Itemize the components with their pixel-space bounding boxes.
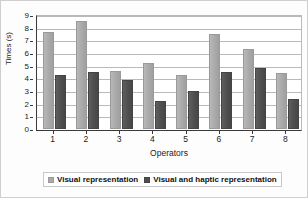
legend-entry-visual: Visual representation <box>48 175 138 184</box>
y-axis-tick-label: 6 <box>25 50 29 58</box>
chart-legend: Visual representation Visual and haptic … <box>43 172 282 187</box>
bar-visual-representation <box>243 49 254 129</box>
bar-visual-haptic-representation <box>255 68 266 129</box>
y-axis-title: Times (s) <box>4 19 13 79</box>
x-axis-tick-mark <box>86 131 87 134</box>
bar-group <box>76 16 99 129</box>
x-axis-tick-label: 4 <box>142 134 162 144</box>
bar-visual-representation <box>276 73 287 129</box>
legend-entry-haptic: Visual and haptic representation <box>144 175 276 184</box>
bar-group <box>143 16 166 129</box>
x-axis-tick-label: 8 <box>275 134 295 144</box>
legend-swatch-icon-haptic <box>144 177 150 183</box>
legend-label-haptic: Visual and haptic representation <box>153 175 276 184</box>
y-axis-tick-label: 9 <box>25 12 29 20</box>
x-axis-tick-label: 3 <box>109 134 129 144</box>
x-axis-tick-mark <box>219 131 220 134</box>
y-axis-tick-mark <box>30 117 33 118</box>
x-axis-tick-label: 1 <box>43 134 63 144</box>
bar-visual-haptic-representation <box>88 72 99 129</box>
bars-layer <box>38 16 301 129</box>
y-axis-tick-mark <box>30 29 33 30</box>
bar-group <box>276 16 299 129</box>
bar-visual-representation <box>110 71 121 129</box>
x-axis-tick-mark <box>119 131 120 134</box>
x-axis-tick-mark <box>152 131 153 134</box>
bar-group <box>209 16 232 129</box>
bar-group <box>176 16 199 129</box>
y-axis-tick-label: 2 <box>25 101 29 109</box>
y-axis-tick-mark <box>30 16 33 17</box>
bar-visual-representation <box>143 63 154 130</box>
y-axis-tick-mark <box>30 92 33 93</box>
y-axis-tick-mark <box>30 130 33 131</box>
y-axis-tick-mark <box>30 79 33 80</box>
bar-group <box>243 16 266 129</box>
bar-group <box>43 16 66 129</box>
y-axis-tick-label: 0 <box>25 126 29 134</box>
y-axis-tick-label: 3 <box>25 88 29 96</box>
y-axis-tick-label: 4 <box>25 75 29 83</box>
y-axis-tick-mark <box>30 54 33 55</box>
y-axis-tick-mark <box>30 105 33 106</box>
x-axis-tick-label: 5 <box>176 134 196 144</box>
bar-visual-representation <box>176 75 187 129</box>
bar-visual-haptic-representation <box>221 72 232 129</box>
x-axis-tick-mark <box>186 131 187 134</box>
y-axis-tick-label: 5 <box>25 63 29 71</box>
bar-chart-figure: 0123456789 Times (s) 12345678 Operators … <box>0 0 308 198</box>
bar-visual-haptic-representation <box>188 91 199 129</box>
y-axis-tick-mark <box>30 41 33 42</box>
bar-visual-representation <box>209 34 220 129</box>
y-axis-tick-label: 7 <box>25 37 29 45</box>
bar-group <box>110 16 133 129</box>
bar-visual-representation <box>76 21 87 129</box>
legend-swatch-icon-visual <box>48 177 54 183</box>
bar-visual-representation <box>43 32 54 129</box>
x-axis-tick-label: 2 <box>76 134 96 144</box>
y-axis-tick-mark <box>30 67 33 68</box>
y-axis-tick-label: 8 <box>25 25 29 33</box>
bar-visual-haptic-representation <box>288 99 299 129</box>
y-axis-tick-label: 1 <box>25 113 29 121</box>
bar-visual-haptic-representation <box>55 75 66 129</box>
x-axis-tick-mark <box>252 131 253 134</box>
bar-visual-haptic-representation <box>122 80 133 129</box>
legend-label-visual: Visual representation <box>57 175 138 184</box>
x-axis-tick-label: 6 <box>209 134 229 144</box>
plot-area <box>36 15 302 131</box>
x-axis-title: Operators <box>36 148 302 158</box>
x-axis-tick-label: 7 <box>242 134 262 144</box>
x-axis-tick-mark <box>285 131 286 134</box>
x-axis-tick-mark <box>53 131 54 134</box>
x-axis-tick-labels: 12345678 <box>36 134 302 148</box>
bar-visual-haptic-representation <box>155 101 166 130</box>
